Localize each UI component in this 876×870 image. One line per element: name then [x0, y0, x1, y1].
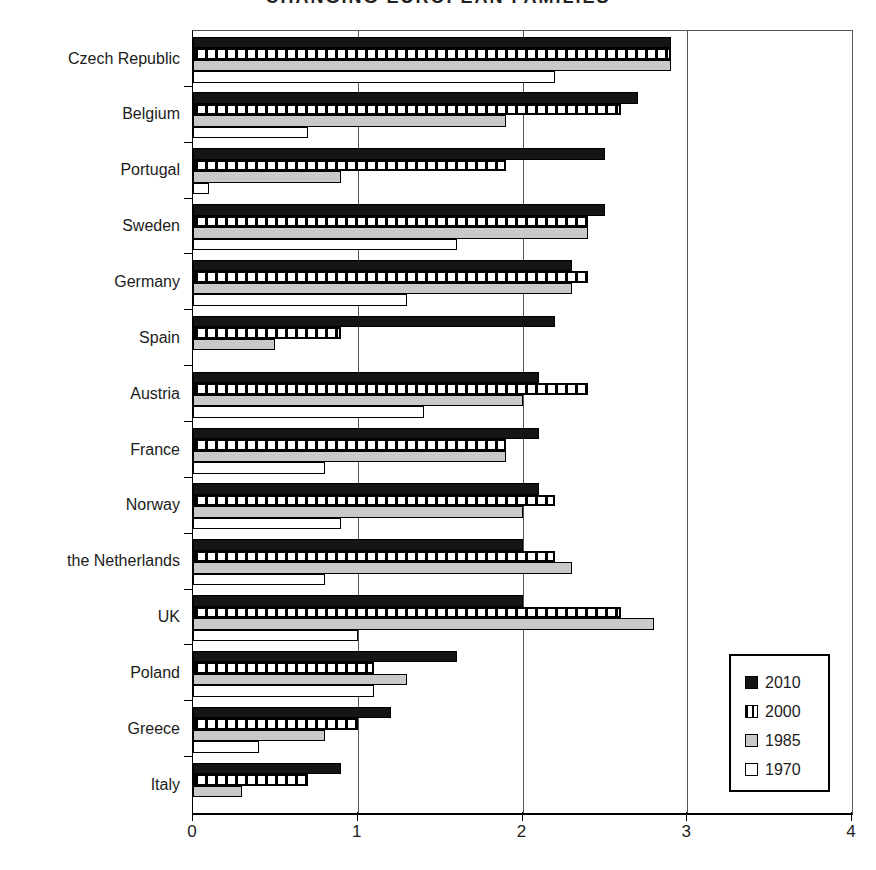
bar-sweden-1970: [193, 239, 457, 251]
bar-poland-2010: [193, 651, 457, 663]
bar-france-1970: [193, 462, 325, 474]
x-axis-tick-3: [686, 812, 687, 821]
y-axis-tick: [184, 365, 192, 366]
bar-austria-1985: [193, 395, 523, 407]
bar-portugal-1985: [193, 171, 341, 183]
bar-portugal-2010: [193, 148, 605, 160]
x-axis-tick-4: [851, 812, 852, 821]
legend-item-1970: 1970: [745, 755, 828, 784]
bar-norway-1985: [193, 506, 523, 518]
bar-uk-2000: [193, 607, 621, 619]
y-axis-tick: [184, 644, 192, 645]
bar-greece-2000: [193, 718, 358, 730]
category-label-the-netherlands: the Netherlands: [0, 552, 180, 570]
legend-item-2010: 2010: [745, 668, 828, 697]
category-label-germany: Germany: [0, 273, 180, 291]
bar-greece-2010: [193, 707, 391, 719]
bar-spain-2010: [193, 316, 555, 328]
legend-swatch-2010: [745, 676, 758, 689]
bar-spain-2000: [193, 327, 341, 339]
y-axis-tick: [184, 477, 192, 478]
bar-czech-republic-1970: [193, 71, 555, 83]
legend-label-1970: 1970: [765, 761, 801, 779]
category-label-czech-republic: Czech Republic: [0, 50, 180, 68]
bar-sweden-1985: [193, 227, 588, 239]
category-label-austria: Austria: [0, 385, 180, 403]
bar-italy-2000: [193, 774, 308, 786]
x-axis-tick-1: [357, 812, 358, 821]
legend-swatch-1970: [745, 763, 758, 776]
bar-france-2010: [193, 428, 539, 440]
legend-item-1985: 1985: [745, 726, 828, 755]
category-label-portugal: Portugal: [0, 161, 180, 179]
bar-poland-1970: [193, 685, 374, 697]
bar-belgium-2010: [193, 92, 638, 104]
bar-austria-1970: [193, 406, 424, 418]
legend-label-1985: 1985: [765, 732, 801, 750]
gridline-3: [687, 31, 688, 813]
bar-norway-2000: [193, 495, 555, 507]
bar-belgium-2000: [193, 104, 621, 116]
legend-label-2010: 2010: [765, 674, 801, 692]
bar-greece-1985: [193, 730, 325, 742]
bar-italy-2010: [193, 763, 341, 775]
y-axis-tick: [184, 253, 192, 254]
category-label-greece: Greece: [0, 720, 180, 738]
bar-france-1985: [193, 451, 506, 463]
bar-czech-republic-1985: [193, 60, 671, 72]
bar-spain-1985: [193, 339, 275, 351]
bar-poland-2000: [193, 662, 374, 674]
bar-france-2000: [193, 439, 506, 451]
y-axis-tick: [184, 700, 192, 701]
y-axis-tick: [184, 86, 192, 87]
bar-czech-republic-2000: [193, 48, 671, 60]
bar-uk-1970: [193, 630, 358, 642]
category-label-spain: Spain: [0, 329, 180, 347]
bar-czech-republic-2010: [193, 37, 671, 49]
category-label-france: France: [0, 441, 180, 459]
category-label-sweden: Sweden: [0, 217, 180, 235]
y-axis-tick: [184, 198, 192, 199]
legend-item-2000: 2000: [745, 697, 828, 726]
bar-uk-2010: [193, 595, 523, 607]
y-axis-tick: [184, 756, 192, 757]
category-label-italy: Italy: [0, 776, 180, 794]
bar-austria-2000: [193, 383, 588, 395]
bar-belgium-1985: [193, 115, 506, 127]
chart-title: CHANGING EUROPEAN FAMILIES: [0, 0, 876, 8]
bar-germany-1985: [193, 283, 572, 295]
x-axis-tick-label-3: 3: [666, 822, 706, 842]
category-label-poland: Poland: [0, 664, 180, 682]
bar-poland-1985: [193, 674, 407, 686]
category-label-uk: UK: [0, 608, 180, 626]
bar-portugal-2000: [193, 160, 506, 172]
bar-norway-1970: [193, 518, 341, 530]
bar-italy-1985: [193, 786, 242, 798]
bar-austria-2010: [193, 372, 539, 384]
x-axis-tick-label-1: 1: [337, 822, 377, 842]
x-axis-tick-label-4: 4: [831, 822, 871, 842]
bar-sweden-2000: [193, 216, 588, 228]
y-axis-tick: [184, 589, 192, 590]
legend-swatch-1985: [745, 734, 758, 747]
chart: CHANGING EUROPEAN FAMILIES Czech Republi…: [0, 0, 876, 870]
bar-sweden-2010: [193, 204, 605, 216]
bar-uk-1985: [193, 618, 654, 630]
bar-germany-2000: [193, 271, 588, 283]
category-label-belgium: Belgium: [0, 105, 180, 123]
x-axis-tick-2: [522, 812, 523, 821]
x-axis-tick-0: [192, 812, 193, 821]
category-label-norway: Norway: [0, 496, 180, 514]
bar-portugal-1970: [193, 183, 209, 195]
bar-the-netherlands-2000: [193, 551, 555, 563]
bar-germany-1970: [193, 294, 407, 306]
bar-germany-2010: [193, 260, 572, 272]
legend-swatch-2000: [745, 705, 758, 718]
bar-greece-1970: [193, 741, 259, 753]
legend-label-2000: 2000: [765, 703, 801, 721]
x-axis-tick-label-0: 0: [172, 822, 212, 842]
legend: 2010200019851970: [729, 654, 830, 792]
bar-the-netherlands-2010: [193, 539, 523, 551]
bar-the-netherlands-1970: [193, 574, 325, 586]
x-axis-tick-label-2: 2: [502, 822, 542, 842]
